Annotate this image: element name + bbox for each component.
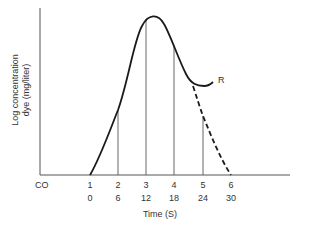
x-tick-row2: 6 xyxy=(115,193,120,203)
dye-curve-solid xyxy=(90,16,213,175)
chart-plot-area xyxy=(0,0,314,229)
x-tick-row2: 12 xyxy=(141,193,151,203)
x-tick-row2: 18 xyxy=(169,193,179,203)
x-tick-row2: 0 xyxy=(87,193,92,203)
recirculation-label: R xyxy=(218,75,225,85)
x-origin-label: CO xyxy=(35,180,49,190)
x-axis-label: Time (S) xyxy=(143,209,177,219)
y-axis-label: Log concentration dye (mg/liter) xyxy=(6,30,36,150)
x-tick-row2: 30 xyxy=(226,193,236,203)
dye-dilution-chart: Log concentration dye (mg/liter) R CO 1 … xyxy=(0,0,314,229)
y-axis-label-line2: dye (mg/liter) xyxy=(21,54,32,126)
y-axis-label-line1: Log concentration xyxy=(10,54,21,126)
x-tick-row1: 2 xyxy=(115,180,120,190)
x-tick-row1: 5 xyxy=(200,180,205,190)
x-tick-row1: 6 xyxy=(228,180,233,190)
x-tick-row1: 3 xyxy=(143,180,148,190)
x-tick-row1: 1 xyxy=(87,180,92,190)
x-tick-row2: 24 xyxy=(198,193,208,203)
x-tick-row1: 4 xyxy=(171,180,176,190)
dye-curve-dashed xyxy=(193,86,231,175)
